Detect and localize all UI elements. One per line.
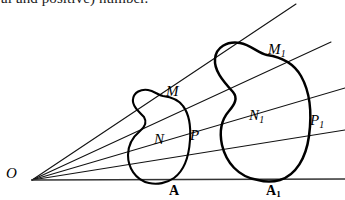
- label-P: P: [190, 128, 199, 143]
- label-O: O: [6, 166, 17, 181]
- label-M1-base: M: [268, 41, 281, 57]
- label-M1: M1: [268, 42, 285, 57]
- label-M1-subscript: 1: [281, 48, 286, 59]
- label-N: N: [154, 132, 164, 147]
- ray-3: [32, 42, 331, 180]
- ray-4: [32, 4, 296, 180]
- geometry-figure: [0, 0, 345, 200]
- label-A: A: [169, 184, 179, 198]
- label-N1: N1: [249, 108, 264, 123]
- label-N1-subscript: 1: [259, 114, 264, 125]
- diagram-page: al and positive) number. O M N P M1 N1 P…: [0, 0, 345, 200]
- label-M: M: [166, 84, 179, 99]
- label-A1-base: A: [266, 183, 276, 198]
- label-P1-base: P: [310, 112, 319, 128]
- label-A1: A1: [266, 184, 281, 198]
- label-N1-base: N: [249, 107, 259, 123]
- label-A1-subscript: 1: [276, 189, 281, 199]
- label-P1: P1: [310, 113, 324, 128]
- label-P1-subscript: 1: [319, 119, 324, 130]
- ray-baseline: [32, 179, 345, 180]
